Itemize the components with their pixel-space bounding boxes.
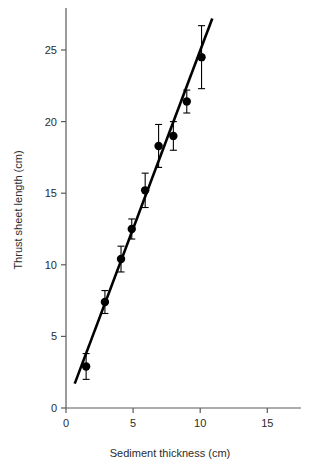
x-tick-label-15: 15 bbox=[261, 417, 273, 429]
data-point bbox=[154, 142, 162, 150]
fit-line bbox=[75, 18, 213, 383]
data-point bbox=[169, 132, 177, 140]
y-axis-title: Thrust sheet length (cm) bbox=[12, 150, 24, 269]
data-point bbox=[117, 255, 125, 263]
data-point bbox=[197, 53, 205, 61]
y-tick-label-25: 25 bbox=[45, 44, 57, 56]
y-tick-label-5: 5 bbox=[51, 330, 57, 342]
data-point bbox=[183, 97, 191, 105]
data-point bbox=[82, 362, 90, 370]
y-tick-label-0: 0 bbox=[51, 402, 57, 414]
axes bbox=[66, 8, 301, 408]
data-points bbox=[82, 53, 206, 371]
regression-line bbox=[75, 18, 213, 383]
x-tick-label-0: 0 bbox=[63, 417, 69, 429]
y-tick-label-20: 20 bbox=[45, 116, 57, 128]
y-tick-label-10: 10 bbox=[45, 259, 57, 271]
tick-marks bbox=[61, 50, 267, 413]
data-point bbox=[101, 298, 109, 306]
data-point bbox=[128, 225, 136, 233]
chart-figure: 0510152025051015 Sediment thickness (cm)… bbox=[0, 0, 311, 468]
x-tick-label-10: 10 bbox=[194, 417, 206, 429]
y-tick-label-15: 15 bbox=[45, 187, 57, 199]
scatter-plot: 0510152025051015 Sediment thickness (cm)… bbox=[0, 0, 311, 468]
x-axis-title: Sediment thickness (cm) bbox=[110, 447, 230, 459]
data-point bbox=[141, 186, 149, 194]
x-tick-label-5: 5 bbox=[130, 417, 136, 429]
